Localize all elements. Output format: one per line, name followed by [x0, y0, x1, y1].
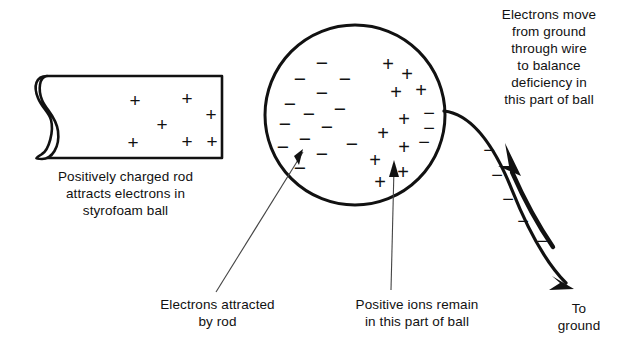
ball-plus-charge: +: [398, 108, 410, 130]
ball-plus-charge: +: [369, 149, 381, 171]
rod-caption: Positively charged rod attracts electron…: [18, 168, 233, 219]
ball-plus-charge: +: [401, 63, 413, 85]
rod-plus-charge: +: [127, 132, 138, 153]
ball-minus-charge: −: [294, 67, 306, 90]
ball-plus-charge: +: [390, 81, 402, 103]
ball-minus-charge: −: [316, 142, 328, 165]
rod-charge-symbols: +++++++: [127, 88, 217, 153]
styrofoam-ball-outline: [265, 25, 445, 205]
ball-minus-charge: −: [346, 132, 358, 155]
ball-minus-charge: −: [339, 67, 351, 90]
figure-canvas: +++++++ −−−−−−−−−−−−−− ++++++++++ −−− −−…: [0, 0, 637, 352]
wire-caption: Electrons move from ground through wire …: [465, 6, 633, 108]
ball-plus-charge: +: [397, 161, 409, 183]
ball-plus-charge: +: [382, 53, 394, 75]
ball-edge-minus-charge: −: [418, 131, 430, 153]
ball-minus-charge: −: [321, 115, 333, 138]
wire-minus-charge: −: [502, 188, 514, 210]
ball-plus-charge: +: [377, 122, 389, 144]
electrons-attracted-caption: Electrons attracted by rod: [130, 296, 305, 330]
rod-plus-charge: +: [181, 88, 192, 109]
ball-minus-charge: −: [334, 97, 346, 120]
wire-minus-charge: −: [517, 210, 529, 232]
ball-minus-charge: −: [299, 127, 311, 150]
rod-plus-charge: +: [206, 131, 217, 152]
ball-minus-charge: −: [316, 81, 328, 104]
ball-plus-charge: +: [415, 79, 427, 101]
wire-minus-charge: −: [483, 139, 495, 161]
rod-plus-charge: +: [156, 114, 167, 135]
ball-minus-charge: −: [277, 135, 289, 158]
rod-plus-charge: +: [129, 90, 140, 111]
ball-minus-charge: −: [279, 112, 291, 135]
ball-plus-charge: +: [398, 136, 410, 158]
rod-plus-charge: +: [205, 104, 216, 125]
ball-minus-charge: −: [316, 51, 328, 74]
ball-plus-charge: +: [374, 171, 386, 193]
ball-minus-charge: −: [303, 102, 315, 125]
rod-plus-charge: +: [181, 131, 192, 152]
positive-ions-caption: Positive ions remain in this part of bal…: [322, 296, 512, 330]
to-ground-caption: To ground: [544, 300, 614, 334]
